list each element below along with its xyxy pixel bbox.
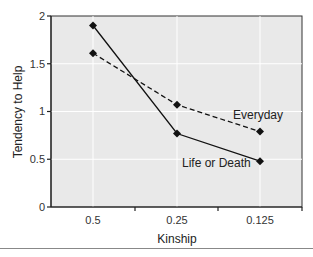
separator-line (0, 248, 313, 249)
x-tick-0.25: 0.25 (166, 214, 187, 226)
y-axis-title: Tendency to Help (11, 65, 25, 158)
y-tick-2: 2 (39, 10, 45, 22)
x-axis-title: Kinship (157, 232, 197, 246)
y-tick-0.5: 0.5 (30, 153, 45, 165)
y-tick-1: 1 (39, 105, 45, 117)
line-chart: 0 0.5 1 1.5 2 0.5 0.25 0.125 Kinship Ten… (0, 0, 313, 257)
series-label-everyday: Everyday (233, 108, 283, 122)
y-tick-1.5: 1.5 (30, 58, 45, 70)
y-tick-0: 0 (39, 201, 45, 213)
x-tick-0.5: 0.5 (85, 214, 100, 226)
series-label-life-or-death: Life or Death (182, 156, 251, 170)
x-tick-0.125: 0.125 (246, 214, 274, 226)
x-tick-labels: 0.5 0.25 0.125 (85, 214, 273, 226)
y-tick-labels: 0 0.5 1 1.5 2 (30, 10, 45, 213)
